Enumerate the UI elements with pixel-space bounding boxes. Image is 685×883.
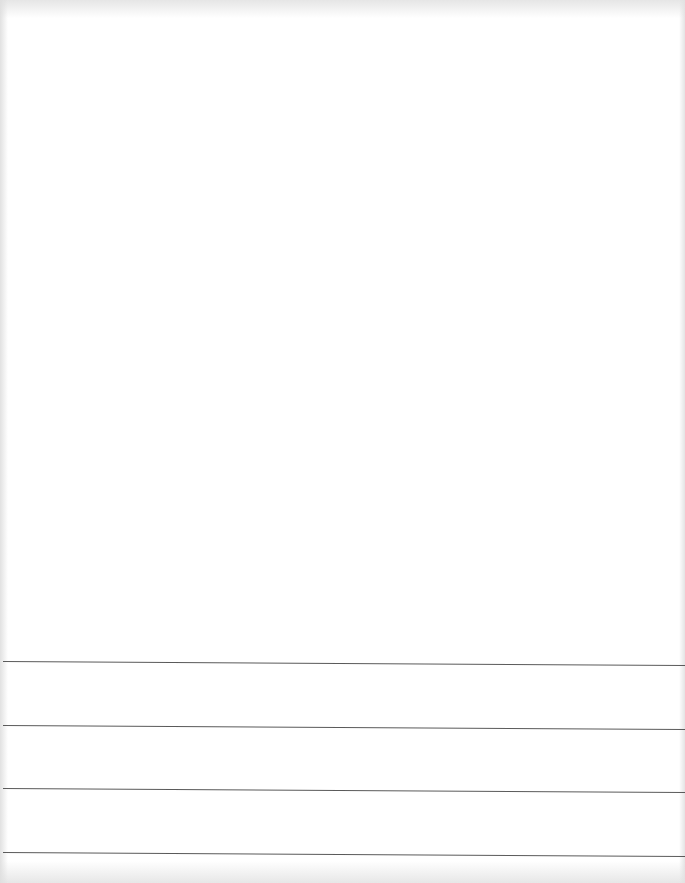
ruled-line: [3, 852, 685, 857]
ruled-line: [3, 788, 685, 793]
scan-edge-shadow-top: [0, 0, 685, 18]
scan-edge-shadow-left: [0, 0, 8, 883]
scan-edge-shadow-bottom: [0, 861, 685, 883]
document-page: [0, 0, 685, 883]
ruled-line: [3, 661, 685, 666]
scan-edge-shadow-right: [679, 0, 685, 883]
ruled-line: [3, 725, 685, 730]
